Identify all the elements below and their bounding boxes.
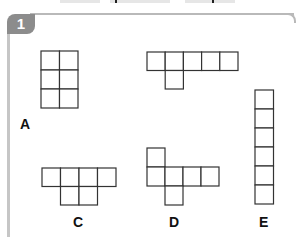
net-square: [255, 109, 274, 128]
net-square: [60, 51, 79, 70]
net-square: [61, 187, 80, 206]
shape-label-c: C: [73, 215, 83, 229]
net-square: [183, 52, 201, 71]
net-square: [41, 70, 60, 89]
net-shapes-canvas: [0, 0, 300, 237]
net-square: [147, 52, 165, 71]
net-square: [42, 168, 61, 187]
shape-a: [41, 51, 78, 108]
net-square: [79, 168, 98, 187]
shape-e: [255, 90, 274, 204]
net-square: [147, 167, 165, 186]
net-square: [201, 167, 219, 186]
net-square: [202, 52, 220, 71]
net-square: [255, 90, 274, 109]
net-square: [60, 89, 79, 108]
net-square: [41, 89, 60, 108]
net-square: [255, 147, 274, 166]
net-square: [255, 166, 274, 185]
shape-d: [147, 148, 219, 205]
net-square: [165, 71, 183, 90]
net-square: [61, 168, 80, 187]
net-square: [220, 52, 238, 71]
shape-label-d: D: [169, 215, 179, 229]
net-square: [165, 52, 183, 71]
net-square: [41, 51, 60, 70]
shape-b: [147, 52, 238, 89]
net-square: [79, 187, 98, 206]
net-square: [165, 167, 183, 186]
net-square: [60, 70, 79, 89]
shape-label-e: E: [259, 215, 268, 229]
net-square: [147, 148, 165, 167]
net-square: [255, 185, 274, 204]
shape-c: [42, 168, 116, 205]
net-square: [183, 167, 201, 186]
net-square: [165, 186, 183, 205]
net-square: [255, 128, 274, 147]
shape-label-a: A: [20, 117, 30, 131]
net-square: [98, 168, 117, 187]
